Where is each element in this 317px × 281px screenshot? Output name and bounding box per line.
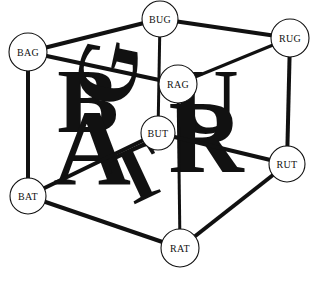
node-label-rut: RUT bbox=[277, 159, 298, 170]
graph-node-rut[interactable]: RUT bbox=[269, 146, 305, 182]
node-label-rag: RAG bbox=[167, 79, 189, 90]
graph-node-bat[interactable]: BAT bbox=[10, 178, 46, 214]
diagram-canvas: BAGURT BAGBUGRUGRAGBUTBATRUTRAT bbox=[0, 0, 317, 281]
node-label-bug: BUG bbox=[149, 14, 171, 25]
graph-node-rug[interactable]: RUG bbox=[271, 19, 309, 57]
word-cube-diagram: BAGURT BAGBUGRUGRAGBUTBATRUTRAT bbox=[0, 0, 317, 281]
graph-node-rag[interactable]: RAG bbox=[159, 65, 197, 103]
node-label-rug: RUG bbox=[279, 33, 301, 44]
graph-node-bug[interactable]: BUG bbox=[142, 1, 178, 37]
node-label-but: BUT bbox=[148, 128, 169, 139]
node-label-rat: RAT bbox=[170, 243, 190, 254]
cube-edge-rag-rat bbox=[178, 84, 180, 248]
graph-node-rat[interactable]: RAT bbox=[161, 229, 199, 267]
node-label-bat: BAT bbox=[18, 191, 38, 202]
graph-node-but[interactable]: BUT bbox=[141, 116, 175, 150]
node-label-bag: BAG bbox=[17, 47, 39, 58]
graph-node-bag[interactable]: BAG bbox=[9, 33, 47, 71]
cube-edge-bug-rug bbox=[160, 19, 290, 38]
